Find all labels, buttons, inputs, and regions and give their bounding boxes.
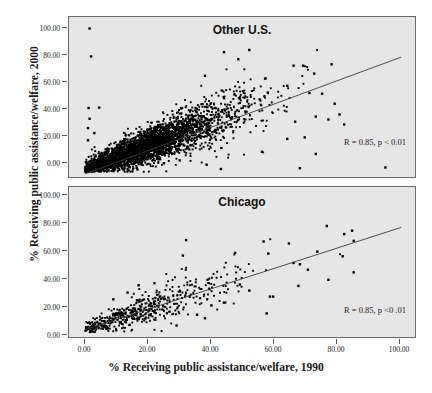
y-tick-label-20-bottom: 20.00 xyxy=(14,303,60,312)
scatter-points-chicago xyxy=(69,187,416,338)
annotation-chicago: R = 0.85, p <0 .01 xyxy=(344,305,406,315)
y-tick-label-0-bottom: 0.00 xyxy=(14,331,60,340)
annotation-other-us: R = 0.85, p < 0.01 xyxy=(344,137,406,147)
y-tick-label-20-top: 20.00 xyxy=(14,132,60,141)
y-tick-label-60-bottom: 60.00 xyxy=(14,247,60,256)
y-tick-mark xyxy=(62,108,67,109)
x-tick-label-100: 100.00 xyxy=(379,345,419,354)
x-tick-label-60: 60.00 xyxy=(253,345,293,354)
y-tick-mark xyxy=(62,81,67,82)
x-tick-mark xyxy=(399,339,400,344)
y-tick-mark xyxy=(62,334,67,335)
y-tick-label-80-top: 80.00 xyxy=(14,51,60,60)
y-tick-label-100-bottom: 100.00 xyxy=(14,191,60,200)
x-tick-mark xyxy=(147,339,148,344)
y-tick-label-40-bottom: 40.00 xyxy=(14,275,60,284)
y-tick-mark xyxy=(62,27,67,28)
y-tick-mark xyxy=(62,278,67,279)
y-tick-label-0-top: 0.00 xyxy=(14,159,60,168)
x-tick-mark xyxy=(210,339,211,344)
scatter-points-other-us xyxy=(69,17,416,178)
y-tick-mark xyxy=(62,54,67,55)
y-tick-mark xyxy=(62,222,67,223)
panel-chicago: Chicago R = 0.85, p <0 .01 xyxy=(68,186,416,338)
scatter-figure: % Receiving public assistance/welfare, 2… xyxy=(0,0,432,393)
y-tick-label-40-top: 40.00 xyxy=(14,105,60,114)
x-tick-label-20: 20.00 xyxy=(127,345,167,354)
panel-other-us: Other U.S. R = 0.85, p < 0.01 xyxy=(68,16,416,178)
y-tick-mark xyxy=(62,162,67,163)
y-tick-mark xyxy=(62,250,67,251)
y-tick-label-80-bottom: 80.00 xyxy=(14,219,60,228)
x-tick-label-0: 0.00 xyxy=(64,345,104,354)
x-tick-mark xyxy=(336,339,337,344)
y-tick-label-60-top: 60.00 xyxy=(14,78,60,87)
x-axis-title: % Receiving public assistance/welfare, 1… xyxy=(0,361,432,373)
y-tick-mark xyxy=(62,194,67,195)
y-axis-title: % Receiving public assistance/welfare, 2… xyxy=(28,24,40,284)
y-tick-label-100-top: 100.00 xyxy=(14,24,60,33)
y-tick-mark xyxy=(62,306,67,307)
x-tick-label-40: 40.00 xyxy=(190,345,230,354)
y-tick-mark xyxy=(62,135,67,136)
x-tick-mark xyxy=(273,339,274,344)
x-tick-mark xyxy=(84,339,85,344)
x-tick-label-80: 80.00 xyxy=(316,345,356,354)
